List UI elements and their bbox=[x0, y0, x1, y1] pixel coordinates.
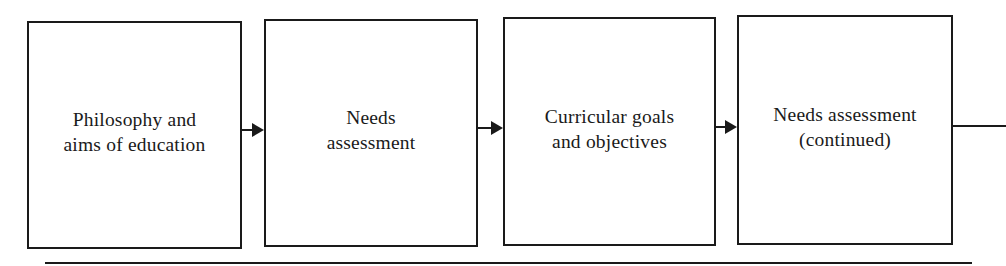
box-needs-assessment: Needs assessment bbox=[264, 19, 478, 247]
exit-connector-line bbox=[952, 125, 1006, 127]
box-philosophy-and-aims: Philosophy and aims of education bbox=[27, 21, 242, 249]
arrowhead-icon bbox=[252, 123, 264, 137]
box-label: Needs assessment (continued) bbox=[773, 102, 916, 152]
arrowhead-icon bbox=[491, 121, 503, 135]
box-curricular-goals: Curricular goals and objectives bbox=[503, 17, 716, 246]
box-label: Philosophy and aims of education bbox=[63, 107, 205, 157]
connector-line bbox=[477, 127, 491, 129]
box-needs-assessment-continued: Needs assessment (continued) bbox=[737, 15, 953, 245]
box-label: Needs assessment bbox=[327, 105, 416, 155]
bottom-rule-divider bbox=[45, 262, 972, 264]
box-label: Curricular goals and objectives bbox=[545, 104, 674, 154]
arrowhead-icon bbox=[725, 120, 737, 134]
